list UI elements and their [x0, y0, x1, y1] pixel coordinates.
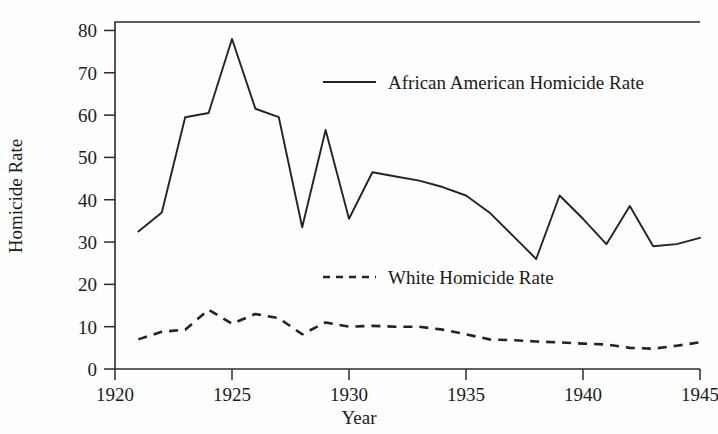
x-tick-label: 1930 [330, 384, 368, 405]
y-tick-label: 70 [78, 63, 97, 84]
y-tick-label: 0 [88, 359, 98, 380]
x-axis-title: Year [341, 407, 377, 428]
y-tick-label: 40 [78, 190, 97, 211]
y-tick-label: 50 [78, 147, 97, 168]
x-tick-label: 1920 [96, 384, 134, 405]
y-tick-label: 30 [78, 232, 97, 253]
series-line-dashed [138, 310, 700, 349]
legend-entry-white[interactable]: White Homicide Rate [323, 267, 554, 288]
y-tick-label: 10 [78, 317, 97, 338]
x-tick-label: 1935 [447, 384, 485, 405]
x-axis: 192019251930193519401945 [96, 369, 718, 405]
homicide-rate-line-chart: 01020304050607080 1920192519301935194019… [0, 0, 718, 434]
x-tick-label: 1925 [213, 384, 251, 405]
y-tick-label: 60 [78, 105, 97, 126]
x-tick-label: 1945 [681, 384, 718, 405]
y-axis-title: Homicide Rate [5, 139, 26, 254]
legend-entry-african-american[interactable]: African American Homicide Rate [323, 72, 644, 93]
y-tick-label: 20 [78, 274, 97, 295]
x-tick-label: 1940 [564, 384, 602, 405]
legend: African American Homicide Rate White Hom… [323, 72, 644, 288]
legend-label-african-american: African American Homicide Rate [388, 72, 644, 93]
legend-label-white: White Homicide Rate [388, 267, 554, 288]
y-axis: 01020304050607080 [78, 20, 115, 380]
chart-figure: 01020304050607080 1920192519301935194019… [0, 0, 718, 434]
y-tick-label: 80 [78, 20, 97, 41]
